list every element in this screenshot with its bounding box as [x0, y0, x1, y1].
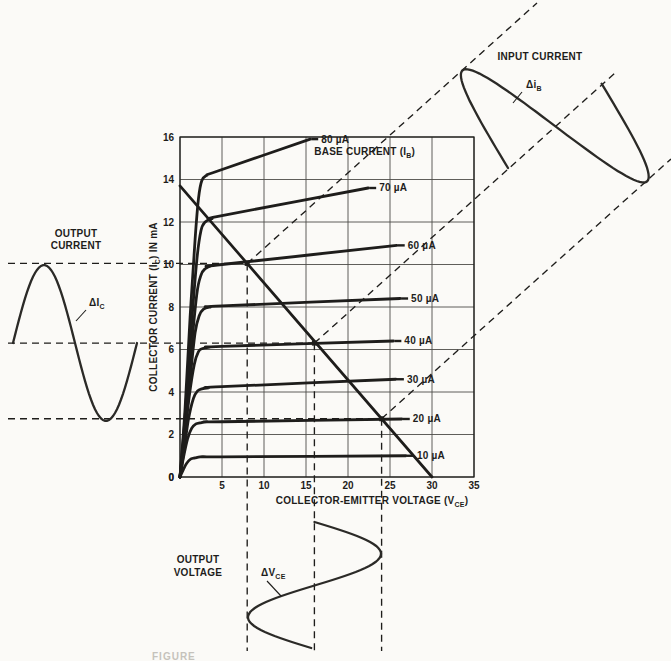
- origin-label: 0: [168, 472, 174, 483]
- curve-label: 70 µA: [379, 182, 407, 193]
- x-tick-label: 25: [384, 480, 396, 491]
- input-current-title: INPUT CURRENT: [498, 51, 583, 62]
- y-tick-label: 12: [163, 217, 175, 228]
- curve-label: 30 µA: [407, 374, 435, 385]
- ib-curve: [180, 245, 397, 477]
- y-tick-label: 6: [168, 344, 174, 355]
- delta-vce-label: ΔVCE: [261, 567, 286, 580]
- y-tick-label: 14: [163, 174, 175, 185]
- curve-label: 20 µA: [413, 413, 441, 424]
- x-tick-label: 20: [342, 480, 354, 491]
- ib-curve: [180, 379, 396, 477]
- y-axis-title: COLLECTOR CURRENT (IC) IN mA: [148, 222, 161, 392]
- delta-vce-pointer: [267, 581, 281, 596]
- operating-point-marker: [379, 416, 384, 421]
- x-axis-title: COLLECTOR-EMITTER VOLTAGE (VCE): [276, 495, 469, 508]
- x-tick-label: 30: [426, 480, 438, 491]
- x-tick-label: 5: [219, 480, 225, 491]
- y-tick-label: 8: [168, 302, 174, 313]
- curve-label: 80 µA: [321, 134, 349, 145]
- delta-ic-label: ΔIC: [89, 297, 105, 310]
- ib-curve: [180, 188, 368, 477]
- ib-curve: [180, 456, 406, 477]
- delta-ic-pointer: [76, 310, 86, 321]
- curve-label: 40 µA: [404, 335, 432, 346]
- y-tick-label: 4: [168, 387, 174, 398]
- y-tick-label: 10: [163, 259, 175, 270]
- delta-ib-label: ΔiB: [526, 79, 542, 92]
- base-current-family-label: BASE CURRENT (IB): [314, 146, 415, 159]
- diagonal-guide-dashed: [314, 73, 615, 343]
- figure-caption: FIGURE: [152, 651, 196, 661]
- y-tick-label: 2: [168, 429, 174, 440]
- curve-label: 50 µA: [411, 293, 439, 304]
- curve-label: 10 µA: [417, 450, 445, 461]
- ib-curve: [180, 419, 402, 477]
- output-current-title-line2: CURRENT: [51, 240, 102, 251]
- operating-point-marker: [312, 341, 317, 346]
- input-current-wave: [461, 69, 649, 182]
- ib-curve: [180, 139, 310, 477]
- chart-layer: 161412108642051015202530350COLLECTOR-EMI…: [8, 3, 671, 651]
- figure-canvas: 161412108642051015202530350COLLECTOR-EMI…: [0, 0, 671, 661]
- transistor-characteristics-figure: 161412108642051015202530350COLLECTOR-EMI…: [0, 0, 671, 661]
- diagonal-guide-dashed: [247, 3, 537, 263]
- operating-point-marker: [245, 261, 250, 266]
- output-current-title-line1: OUTPUT: [55, 228, 98, 239]
- output-voltage-title-line1: OUTPUT: [177, 554, 220, 565]
- y-tick-label: 16: [163, 132, 175, 143]
- x-tick-label: 15: [300, 480, 312, 491]
- x-tick-label: 10: [258, 480, 270, 491]
- output-voltage-title-line2: VOLTAGE: [174, 567, 223, 578]
- curve-label: 60 µA: [408, 240, 436, 251]
- x-tick-label: 35: [468, 480, 480, 491]
